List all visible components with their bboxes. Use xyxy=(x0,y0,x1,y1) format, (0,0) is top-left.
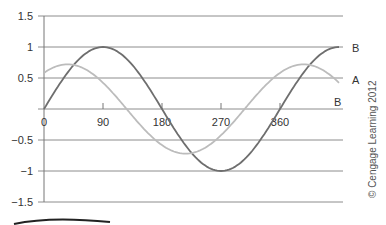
y-tick-label: 0.5 xyxy=(18,72,33,84)
copyright-credit: © Cengage Learning 2012 xyxy=(367,80,378,198)
y-tick-label: −1.5 xyxy=(11,196,33,208)
y-tick-labels: 1.510.5−0.5−1−1.5 xyxy=(11,10,33,208)
y-tick-label: −0.5 xyxy=(11,134,33,146)
x-tick-label: 360 xyxy=(271,116,289,128)
y-tick-label: −1 xyxy=(20,165,33,177)
x-tick-label: 90 xyxy=(97,116,109,128)
series-label-b-top: B xyxy=(352,42,359,54)
y-tick-label: 1 xyxy=(27,41,33,53)
x-tick-label: 0 xyxy=(41,116,47,128)
sine-wave-chart: 1.510.5−0.5−1−1.5 090180270360 B A B © C… xyxy=(0,0,386,225)
series-label-a: A xyxy=(352,74,360,86)
decorative-swoosh xyxy=(14,219,110,224)
series-label-b-axis: B xyxy=(334,96,341,108)
y-tick-label: 1.5 xyxy=(18,10,33,22)
x-tick-label: 180 xyxy=(153,116,171,128)
x-tick-labels: 090180270360 xyxy=(41,116,289,128)
x-tick-label: 270 xyxy=(212,116,230,128)
axes xyxy=(38,16,343,202)
